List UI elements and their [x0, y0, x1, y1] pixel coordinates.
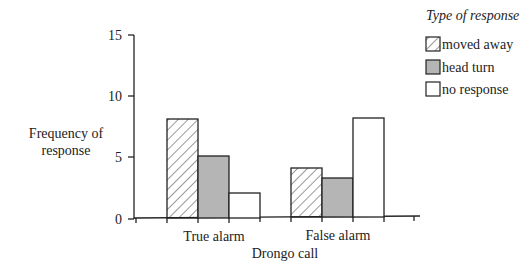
legend-label-head-turn: head turn: [442, 60, 494, 75]
bar-false-no-response: [353, 118, 384, 217]
bar-true-moved-away: [167, 119, 198, 218]
y-axis: [128, 35, 134, 219]
x-category-false-alarm: False alarm: [306, 228, 371, 243]
legend-title: Type of response: [426, 8, 519, 23]
bar-true-head-turn: [198, 156, 229, 218]
legend-swatch-head-turn: [426, 60, 440, 74]
bar-false-head-turn: [322, 178, 353, 217]
legend-swatch-moved-away: [426, 37, 440, 51]
y-axis-label-line2: response: [42, 143, 91, 158]
bars-false-alarm: [291, 118, 384, 217]
y-tick-0: 0: [115, 212, 122, 227]
legend-swatch-no-response: [426, 82, 440, 96]
legend-label-no-response: no response: [442, 82, 509, 97]
y-tick-10: 10: [108, 89, 122, 104]
x-category-true-alarm: True alarm: [183, 229, 244, 244]
legend-label-moved-away: moved away: [442, 37, 513, 52]
bar-chart: 15 10 5 0 Frequency of response True ala…: [0, 0, 523, 278]
bar-true-no-response: [229, 193, 260, 218]
bar-false-moved-away: [291, 168, 322, 217]
legend: Type of response moved away head turn no…: [426, 8, 519, 97]
x-axis-label: Drongo call: [252, 246, 319, 261]
y-tick-5: 5: [115, 150, 122, 165]
bars-true-alarm: [167, 119, 260, 218]
y-tick-15: 15: [108, 28, 122, 43]
y-axis-label-line1: Frequency of: [29, 126, 104, 141]
